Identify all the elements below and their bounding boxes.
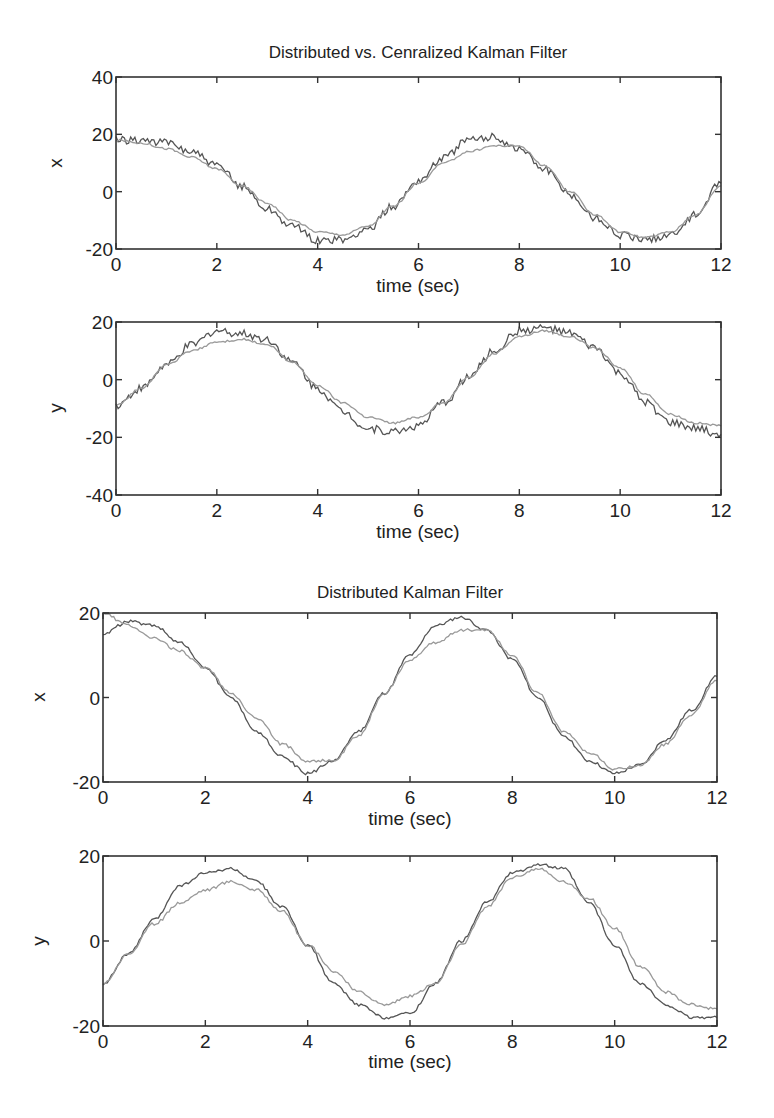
series-line-light bbox=[103, 613, 717, 770]
plot-3-x-vs-time: Distributed Kalman Filter 024681012-2002… bbox=[28, 583, 728, 829]
x-tick-label: 8 bbox=[507, 1031, 518, 1052]
y-tick-label: 40 bbox=[92, 67, 113, 88]
axes-frame bbox=[116, 77, 721, 249]
x-tick-label: 8 bbox=[514, 254, 525, 275]
axes-frame bbox=[116, 322, 721, 495]
y-tick-label: 20 bbox=[79, 846, 100, 867]
x-tick-label: 4 bbox=[302, 1031, 313, 1052]
series-layer bbox=[103, 864, 717, 1019]
plot-title: Distributed Kalman Filter bbox=[317, 583, 503, 602]
ticks: 024681012-20020 bbox=[73, 846, 728, 1052]
x-tick-label: 12 bbox=[706, 1031, 727, 1052]
y-tick-label: 20 bbox=[92, 124, 113, 145]
plot-2-y-vs-time: 024681012-40-20020 y time (sec) bbox=[45, 312, 732, 542]
ticks: 024681012-20020 bbox=[73, 603, 728, 808]
series-line-dark bbox=[116, 325, 721, 437]
x-tick-label: 4 bbox=[312, 254, 323, 275]
series-line-light bbox=[116, 139, 721, 238]
x-axis-label: time (sec) bbox=[376, 521, 459, 542]
y-tick-label: 20 bbox=[92, 312, 113, 333]
x-tick-label: 8 bbox=[514, 500, 525, 521]
y-tick-label: 0 bbox=[89, 688, 100, 709]
y-tick-label: -20 bbox=[86, 427, 113, 448]
series-line-dark bbox=[116, 134, 721, 244]
x-tick-label: 6 bbox=[413, 254, 424, 275]
y-axis-label: y bbox=[45, 403, 66, 413]
x-tick-label: 12 bbox=[710, 254, 731, 275]
x-axis-label: time (sec) bbox=[368, 808, 451, 829]
x-tick-label: 6 bbox=[405, 787, 416, 808]
axes-frame bbox=[103, 613, 717, 782]
x-tick-label: 2 bbox=[200, 1031, 211, 1052]
y-axis-label: x bbox=[28, 692, 49, 702]
series-line-light bbox=[116, 330, 721, 426]
series-line-light bbox=[103, 868, 717, 1009]
plot-title: Distributed vs. Cenralized Kalman Filter bbox=[269, 43, 568, 62]
y-axis-label: x bbox=[45, 158, 66, 168]
x-tick-label: 2 bbox=[200, 787, 211, 808]
x-tick-label: 2 bbox=[212, 254, 223, 275]
x-axis-label: time (sec) bbox=[376, 275, 459, 296]
x-axis-label: time (sec) bbox=[368, 1051, 451, 1072]
x-tick-label: 12 bbox=[710, 500, 731, 521]
ticks: 024681012-40-20020 bbox=[86, 312, 732, 521]
y-tick-label: 0 bbox=[102, 182, 113, 203]
series-layer bbox=[116, 325, 721, 437]
y-tick-label: -40 bbox=[86, 485, 113, 506]
x-tick-label: 10 bbox=[610, 254, 631, 275]
x-tick-label: 10 bbox=[610, 500, 631, 521]
x-tick-label: 8 bbox=[507, 787, 518, 808]
x-tick-label: 10 bbox=[604, 1031, 625, 1052]
y-tick-label: 20 bbox=[79, 603, 100, 624]
y-tick-label: -20 bbox=[73, 1016, 100, 1037]
x-tick-label: 6 bbox=[405, 1031, 416, 1052]
y-axis-label: y bbox=[28, 936, 49, 946]
y-tick-label: 0 bbox=[89, 931, 100, 952]
figure-canvas: Distributed vs. Cenralized Kalman Filter… bbox=[0, 0, 774, 1118]
series-line-dark bbox=[103, 616, 717, 775]
plot-1-x-vs-time: Distributed vs. Cenralized Kalman Filter… bbox=[45, 43, 732, 296]
x-tick-label: 4 bbox=[312, 500, 323, 521]
y-tick-label: -20 bbox=[73, 772, 100, 793]
x-tick-label: 10 bbox=[604, 787, 625, 808]
plot-4-y-vs-time: 024681012-20020 y time (sec) bbox=[28, 846, 728, 1072]
x-tick-label: 12 bbox=[706, 787, 727, 808]
y-tick-label: 0 bbox=[102, 370, 113, 391]
series-layer bbox=[116, 134, 721, 244]
x-tick-label: 6 bbox=[413, 500, 424, 521]
ticks: 024681012-2002040 bbox=[86, 67, 732, 275]
series-layer bbox=[103, 613, 717, 775]
x-tick-label: 2 bbox=[212, 500, 223, 521]
x-tick-label: 4 bbox=[302, 787, 313, 808]
y-tick-label: -20 bbox=[86, 239, 113, 260]
